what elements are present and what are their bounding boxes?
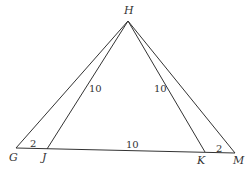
- length-label-HK: 10: [154, 84, 167, 94]
- point-label-H: H: [124, 5, 134, 16]
- point-label-J: J: [42, 152, 46, 163]
- segment-HM: [128, 21, 235, 153]
- length-label-HJ: 10: [89, 84, 102, 94]
- point-label-G: G: [9, 152, 18, 163]
- length-label-GJ: 2: [30, 139, 36, 149]
- point-label-K: K: [197, 155, 205, 166]
- length-label-JK: 10: [126, 140, 139, 150]
- segment-HJ: [47, 21, 128, 149]
- triangle-figure: [0, 0, 245, 171]
- length-label-KM: 2: [216, 144, 222, 154]
- segment-HG: [16, 21, 128, 148]
- point-label-M: M: [233, 155, 244, 166]
- geometry-diagram: H G J K M 10 10 10 2 2: [0, 0, 245, 171]
